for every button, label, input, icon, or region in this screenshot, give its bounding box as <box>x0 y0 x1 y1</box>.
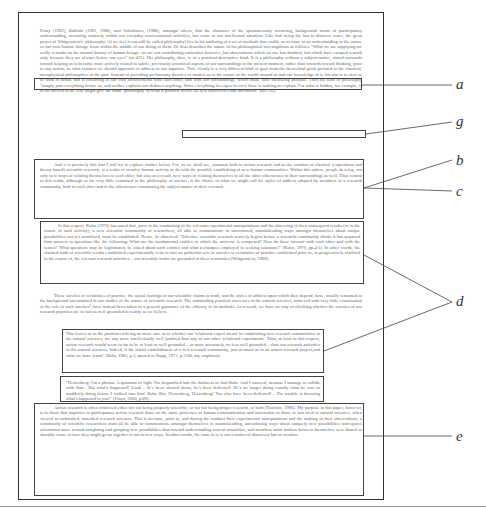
annotation-label-b: b <box>456 153 464 168</box>
annotation-label-e: e <box>456 429 463 444</box>
annotation-label-g: g <box>456 114 464 129</box>
annotation-label-d: d <box>456 294 464 309</box>
caption-rule <box>0 506 486 507</box>
annotation-label-c: c <box>456 184 463 199</box>
annotation-label-a: a <box>456 77 464 92</box>
leader-lines <box>0 0 486 524</box>
